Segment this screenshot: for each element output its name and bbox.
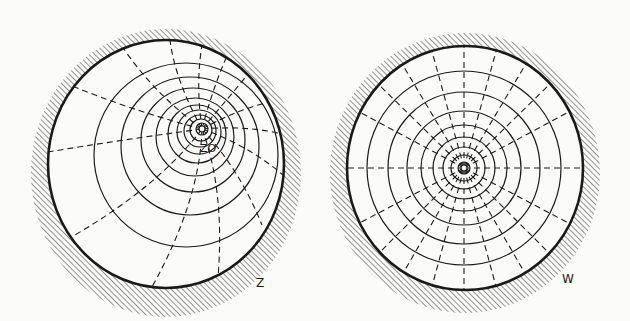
- panel-label-z: Z: [256, 276, 264, 290]
- boundary-circle-z: [48, 40, 284, 288]
- singular-point-z0: [199, 126, 205, 132]
- center-point-w: [461, 165, 467, 171]
- point-label-z0: ZO: [200, 142, 217, 155]
- panel-w: W: [330, 33, 600, 313]
- boundary-hatching-z: [31, 29, 301, 317]
- conformal-map-figure: ZO Z: [0, 0, 630, 321]
- panel-label-w: W: [562, 272, 574, 286]
- panel-z: ZO Z: [31, 29, 301, 317]
- level-circles-z: [94, 63, 278, 247]
